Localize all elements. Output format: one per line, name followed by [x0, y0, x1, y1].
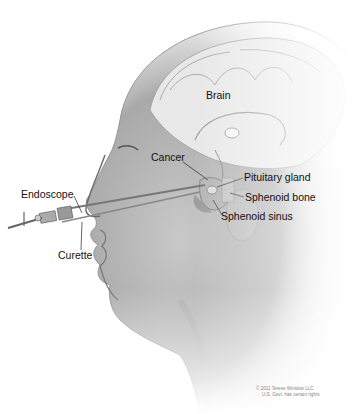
label-brain: Brain [206, 90, 231, 101]
copyright-notice: © 2011 Terese Winslow LLC U.S. Govt. has… [256, 386, 319, 397]
label-sphenoid-bone: Sphenoid bone [245, 192, 316, 203]
copyright-line-1: © 2011 Terese Winslow LLC [256, 386, 319, 392]
label-endoscope: Endoscope [21, 189, 74, 200]
label-cancer: Cancer [151, 152, 185, 163]
label-sphenoid-sinus: Sphenoid sinus [221, 211, 293, 222]
label-pituitary-gland: Pituitary gland [244, 172, 311, 183]
illustration-canvas: Brain Cancer Pituitary gland Sphenoid bo… [0, 0, 355, 414]
head-sagittal-illustration [0, 0, 355, 414]
copyright-line-2: U.S. Govt. has certain rights [256, 392, 319, 398]
label-curette: Curette [58, 250, 92, 261]
